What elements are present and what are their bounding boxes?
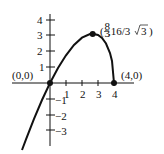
point-origin xyxy=(47,80,53,86)
y-tick-label-m2: −2 xyxy=(55,110,67,122)
function-plot: 1 2 3 4 4 3 2 1 −1 −2 −3 (0,0) (4,0) ( 8… xyxy=(0,0,164,154)
x-tick-label-3: 3 xyxy=(96,88,102,100)
svg-text:3: 3 xyxy=(141,25,147,37)
y-tick-label-4: 4 xyxy=(37,14,43,26)
max-point-label: ( 8 3 ,16/3 3 ) xyxy=(100,20,153,39)
point-max xyxy=(90,31,96,37)
svg-text:): ) xyxy=(149,25,153,38)
endpoint-label: (4,0) xyxy=(121,69,142,82)
svg-text:,16/3: ,16/3 xyxy=(108,25,131,37)
y-tick-label-m1: −1 xyxy=(55,94,67,106)
point-endpoint xyxy=(111,80,117,86)
origin-label: (0,0) xyxy=(12,69,33,82)
y-tick-label-2: 2 xyxy=(37,45,43,57)
y-tick-label-1: 1 xyxy=(39,61,45,73)
svg-text:(: ( xyxy=(100,25,104,38)
x-tick-label-4: 4 xyxy=(112,88,118,100)
x-tick-label-2: 2 xyxy=(80,88,86,100)
y-tick-label-m3: −3 xyxy=(55,125,67,137)
y-tick-label-3: 3 xyxy=(37,29,43,41)
